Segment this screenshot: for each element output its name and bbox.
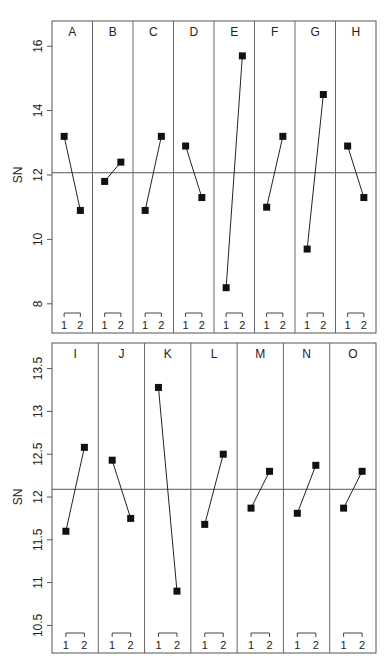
- level-label: 1: [345, 319, 351, 331]
- effect-line: [145, 136, 161, 210]
- level-bracket: [105, 313, 121, 317]
- level-label: 1: [341, 639, 347, 651]
- level-label: 2: [359, 639, 365, 651]
- factor-j: J12: [98, 343, 134, 653]
- data-point-marker: [263, 204, 270, 211]
- level-label: 1: [102, 319, 108, 331]
- data-point-marker: [158, 133, 165, 140]
- level-bracket: [307, 313, 323, 317]
- y-tick-label: 10.5: [31, 613, 45, 637]
- level-label: 2: [128, 639, 134, 651]
- y-axis: 810121416: [31, 39, 52, 307]
- factor-f: F12: [255, 21, 287, 333]
- factor-label: N: [302, 347, 311, 361]
- level-label: 1: [63, 639, 69, 651]
- data-point-marker: [173, 588, 180, 595]
- main-effects-plot: 810121416SNA12B12C12D12E12F12G12H1210.51…: [0, 0, 392, 668]
- y-tick-label: 11.5: [31, 528, 45, 551]
- level-bracket: [267, 313, 283, 317]
- y-axis-label: SN: [11, 167, 25, 184]
- data-point-marker: [109, 457, 116, 464]
- data-point-marker: [62, 528, 69, 535]
- factor-a: A12: [61, 25, 84, 331]
- effect-line: [64, 136, 80, 210]
- effect-line: [307, 95, 323, 250]
- level-label: 1: [109, 639, 115, 651]
- data-point-marker: [223, 284, 230, 291]
- factor-label: K: [164, 347, 172, 361]
- data-point-marker: [266, 468, 273, 475]
- level-label: 1: [202, 639, 208, 651]
- data-point-marker: [101, 178, 108, 185]
- level-label: 1: [294, 639, 300, 651]
- level-label: 2: [199, 319, 205, 331]
- factor-label: L: [211, 347, 218, 361]
- factor-g: G12: [295, 21, 327, 333]
- level-label: 2: [118, 319, 124, 331]
- data-point-marker: [117, 159, 124, 166]
- level-label: 1: [142, 319, 148, 331]
- y-tick-label: 8: [31, 300, 45, 307]
- level-bracket: [344, 633, 363, 637]
- factor-i: I12: [62, 347, 88, 651]
- level-bracket: [112, 633, 131, 637]
- factor-label: F: [271, 25, 278, 39]
- level-bracket: [226, 313, 242, 317]
- data-point-marker: [320, 91, 327, 98]
- data-point-marker: [182, 143, 189, 150]
- level-label: 1: [183, 319, 189, 331]
- effect-line: [226, 56, 242, 288]
- y-axis-label: SN: [11, 489, 25, 506]
- y-tick-label: 12: [31, 168, 45, 182]
- panel-2: 10.51111.51212.51313.5SNI12J12K12L12M12N…: [11, 343, 376, 653]
- level-label: 1: [264, 319, 270, 331]
- data-point-marker: [312, 462, 319, 469]
- factor-label: M: [255, 347, 265, 361]
- level-label: 1: [223, 319, 229, 331]
- y-tick-label: 12.5: [31, 442, 45, 466]
- data-point-marker: [239, 52, 246, 59]
- data-point-marker: [304, 246, 311, 253]
- data-point-marker: [61, 133, 68, 140]
- level-label: 2: [239, 319, 245, 331]
- factor-label: O: [348, 347, 357, 361]
- panel-1: 810121416SNA12B12C12D12E12F12G12H12: [11, 21, 376, 333]
- level-label: 2: [81, 639, 87, 651]
- level-label: 1: [61, 319, 67, 331]
- y-tick-label: 13.5: [31, 357, 45, 381]
- data-point-marker: [127, 515, 134, 522]
- y-tick-label: 10: [31, 232, 45, 246]
- factor-e: E12: [214, 21, 246, 333]
- level-label: 2: [174, 639, 180, 651]
- level-label: 1: [248, 639, 254, 651]
- factor-label: H: [351, 25, 360, 39]
- effect-line: [348, 146, 364, 198]
- factor-label: G: [311, 25, 320, 39]
- level-label: 1: [304, 319, 310, 331]
- data-point-marker: [294, 510, 301, 517]
- data-point-marker: [77, 207, 84, 214]
- level-bracket: [158, 633, 177, 637]
- data-point-marker: [81, 444, 88, 451]
- data-point-marker: [340, 505, 347, 512]
- level-bracket: [251, 633, 270, 637]
- data-point-marker: [359, 468, 366, 475]
- factor-n: N12: [283, 343, 319, 653]
- level-bracket: [66, 633, 85, 637]
- factor-d: D12: [174, 21, 206, 333]
- factor-label: A: [68, 25, 76, 39]
- data-point-marker: [201, 521, 208, 528]
- y-axis: 10.51111.51212.51313.5: [31, 357, 52, 637]
- factor-label: I: [73, 347, 76, 361]
- level-bracket: [205, 633, 224, 637]
- level-label: 2: [77, 319, 83, 331]
- factor-m: M12: [237, 343, 273, 653]
- factor-label: J: [118, 347, 124, 361]
- level-label: 2: [266, 639, 272, 651]
- y-tick-label: 13: [31, 404, 45, 418]
- data-point-marker: [279, 133, 286, 140]
- factor-o: O12: [330, 343, 366, 653]
- level-label: 2: [158, 319, 164, 331]
- effect-line: [186, 146, 202, 198]
- data-point-marker: [220, 451, 227, 458]
